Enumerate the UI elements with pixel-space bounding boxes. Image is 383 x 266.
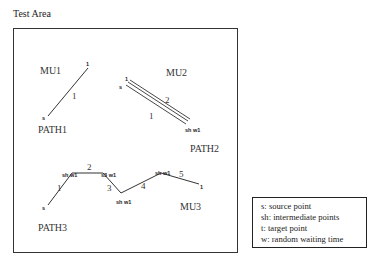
path2-end-label: sh w1 — [185, 127, 200, 133]
legend-item-target: t: target point — [261, 223, 366, 234]
path2: s 1 sh w1 1 2 — [119, 76, 200, 133]
path1-segment-1: 1 — [72, 91, 77, 101]
path1-label: PATH1 — [38, 124, 67, 135]
path2-source-label: s — [119, 84, 122, 90]
path3-waypoint-4-label: sh w1 — [155, 170, 170, 176]
path3-segment-4: 4 — [141, 181, 146, 191]
mu3-label: MU3 — [180, 201, 201, 212]
path1-source-label: s — [42, 115, 45, 121]
path3-segment-1: 1 — [57, 183, 62, 193]
path2-target-label: 1 — [125, 76, 128, 82]
path3-waypoint-2-label: s3 w1 — [101, 172, 116, 178]
mu2-label: MU2 — [166, 67, 187, 78]
legend-item-intermediate: sh: intermediate points — [261, 212, 366, 223]
path3-segment-2: 2 — [87, 162, 92, 172]
path3-segment-3: 3 — [107, 183, 112, 193]
path3-label: PATH3 — [38, 222, 67, 233]
path2-segment-1: 1 — [149, 111, 154, 121]
path3: s sh w1 s3 w1 sh w1 sh w1 1 1 2 3 4 5 — [42, 162, 203, 211]
mu1-label: MU1 — [40, 65, 61, 76]
path2-segment-2: 2 — [165, 95, 170, 105]
path3-target-label: 1 — [200, 184, 203, 190]
path3-waypoint-3-label: sh w1 — [116, 199, 131, 205]
path3-waypoint-1-label: sh w1 — [62, 172, 77, 178]
legend-box: s: source point sh: intermediate points … — [252, 197, 367, 248]
legend-item-source: s: source point — [261, 201, 366, 212]
path3-segment-5: 5 — [179, 169, 184, 179]
path1-target-label: 1 — [86, 61, 89, 67]
path2-label: PATH2 — [190, 143, 219, 154]
legend-item-waiting: w: random waiting time — [261, 234, 366, 245]
path3-source-label: s — [42, 205, 45, 211]
